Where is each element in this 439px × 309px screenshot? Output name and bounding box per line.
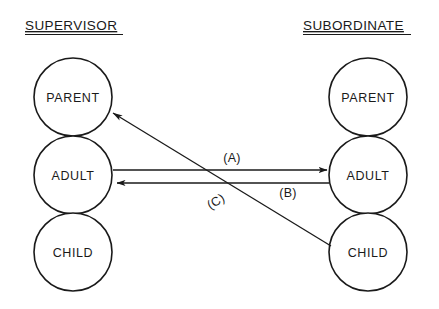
subordinate-child-label: CHILD	[348, 246, 389, 260]
heading-subordinate: SUBORDINATE	[303, 18, 411, 35]
subordinate-ego-state-stack: PARENT ADULT CHILD	[329, 58, 407, 291]
diagram-canvas: SUPERVISOR SUBORDINATE PARENT ADULT CHIL…	[0, 0, 439, 309]
subordinate-adult-node[interactable]: ADULT	[329, 136, 407, 214]
transaction-c-label: (C)	[205, 191, 228, 212]
transactional-analysis-diagram: SUPERVISOR SUBORDINATE PARENT ADULT CHIL…	[0, 0, 439, 309]
supervisor-adult-node[interactable]: ADULT	[34, 136, 112, 214]
heading-supervisor-label: SUPERVISOR	[25, 18, 117, 33]
transaction-c-arrow[interactable]: (C)	[113, 113, 331, 246]
subordinate-parent-label: PARENT	[341, 91, 394, 105]
supervisor-child-label: CHILD	[53, 246, 94, 260]
subordinate-child-node[interactable]: CHILD	[329, 213, 407, 291]
subordinate-adult-label: ADULT	[346, 169, 389, 183]
supervisor-parent-label: PARENT	[46, 91, 99, 105]
supervisor-parent-node[interactable]: PARENT	[34, 58, 112, 136]
heading-supervisor: SUPERVISOR	[25, 18, 123, 35]
supervisor-ego-state-stack: PARENT ADULT CHILD	[34, 58, 112, 291]
heading-subordinate-label: SUBORDINATE	[303, 18, 404, 33]
transaction-c-line[interactable]	[113, 113, 331, 246]
transaction-b-label: (B)	[279, 186, 297, 200]
transaction-a-label: (A)	[223, 151, 241, 165]
supervisor-adult-label: ADULT	[51, 169, 94, 183]
subordinate-parent-node[interactable]: PARENT	[329, 58, 407, 136]
supervisor-child-node[interactable]: CHILD	[34, 213, 112, 291]
transaction-a-arrow[interactable]: (A)	[113, 151, 327, 170]
